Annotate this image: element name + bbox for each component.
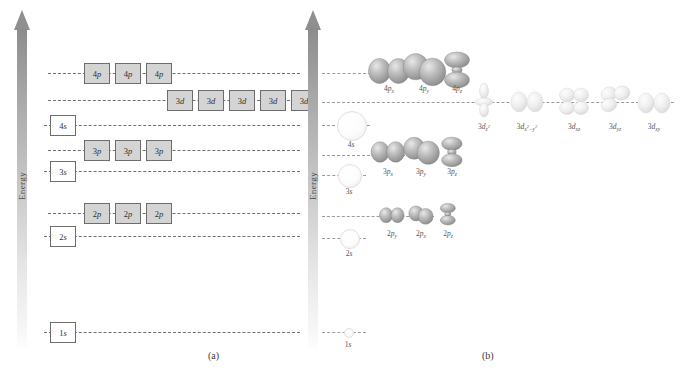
orbital-box-3s[interactable]: 3s — [50, 161, 76, 182]
orbital-box-4p[interactable]: 4p — [115, 63, 141, 84]
orbital-box-2p[interactable]: 2p — [115, 203, 141, 224]
orbital-box-3d[interactable]: 3d — [167, 90, 193, 111]
orbital-2s[interactable] — [340, 229, 360, 249]
orbital-3dx2y2[interactable] — [507, 85, 547, 119]
orbital-label-3py: 3py — [405, 167, 437, 177]
orbital-box-3p[interactable]: 3p — [146, 140, 172, 161]
orbital-label-3dz2: 3dz2 — [462, 122, 506, 132]
orbital-3dxz[interactable] — [554, 85, 594, 119]
orbital-3dxy[interactable] — [634, 86, 674, 120]
orbital-3dz2[interactable] — [464, 83, 504, 117]
orbital-label-4s: 4s — [337, 140, 365, 149]
orbital-2pz[interactable] — [434, 204, 462, 224]
orbital-label-1s: 1s — [334, 340, 362, 349]
orbital-box-2p[interactable]: 2p — [84, 203, 110, 224]
orbital-label-3dyz: 3dyz — [593, 122, 637, 132]
orbital-3dyz[interactable] — [595, 83, 635, 117]
energy-axis-arrow-a: Energy — [14, 10, 30, 348]
orbital-label-2s: 2s — [335, 249, 363, 258]
orbital-box-1s[interactable]: 1s — [50, 322, 76, 343]
orbital-label-3dxy: 3dxy — [632, 122, 676, 132]
orbital-box-3d[interactable]: 3d — [260, 90, 286, 111]
orbital-2px[interactable] — [407, 205, 435, 225]
orbital-label-3dx2y2: 3dx2−y2 — [505, 122, 549, 132]
orbital-box-4p[interactable]: 4p — [146, 63, 172, 84]
arrow-head-icon — [14, 10, 30, 30]
panel-b-caption: (b) — [482, 350, 494, 361]
orbital-label-3px: 3px — [372, 167, 404, 177]
orbital-3s[interactable] — [338, 164, 362, 188]
level-line-4s — [44, 125, 300, 126]
orbital-4s[interactable] — [337, 111, 367, 141]
orbital-box-3d[interactable]: 3d — [198, 90, 224, 111]
orbital-label-2py: 2py — [376, 229, 408, 239]
energy-axis-arrow-b: Energy — [305, 10, 321, 348]
level-line-1s — [44, 332, 300, 333]
orbital-label-2pz: 2pz — [432, 229, 464, 239]
orbital-box-2s[interactable]: 2s — [50, 226, 76, 247]
energy-axis-label-b: Energy — [308, 172, 318, 200]
orbital-4pz[interactable] — [434, 53, 480, 87]
orbital-label-3dxz: 3dxz — [552, 122, 596, 132]
energy-axis-label-a: Energy — [17, 172, 27, 200]
level-line-2s — [44, 236, 300, 237]
arrow-head-icon — [305, 10, 321, 30]
orbital-2py[interactable] — [378, 205, 406, 225]
orbital-3pz[interactable] — [433, 138, 471, 166]
orbital-label-3pz: 3pz — [436, 167, 468, 177]
orbital-energy-level-figure: Energy 4p4p4p3d3d3d3d3d4s3p3p3p3s2p2p2p2… — [0, 0, 680, 376]
orbital-box-3p[interactable]: 3p — [84, 140, 110, 161]
level-line-3s — [44, 171, 300, 172]
orbital-label-3s: 3s — [335, 187, 363, 196]
orbital-1s[interactable] — [344, 328, 354, 338]
panel-a-caption: (a) — [208, 350, 219, 361]
orbital-box-2p[interactable]: 2p — [146, 203, 172, 224]
orbital-box-3d[interactable]: 3d — [229, 90, 255, 111]
orbital-box-3p[interactable]: 3p — [115, 140, 141, 161]
orbital-box-4p[interactable]: 4p — [84, 63, 110, 84]
orbital-box-4s[interactable]: 4s — [50, 115, 76, 136]
